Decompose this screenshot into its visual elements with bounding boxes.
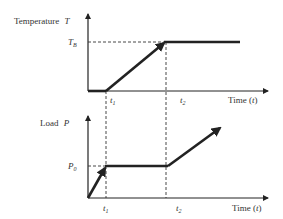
temperature-ramp-arrow <box>106 43 164 91</box>
p0-label: P0 <box>67 161 77 172</box>
time-axis-label-top: Time (t) <box>228 95 257 105</box>
t2-label-bottom: t2 <box>176 203 182 214</box>
load-axis-label: Load P <box>40 118 70 128</box>
time-axis-label-bottom: Time (t) <box>232 203 261 213</box>
load-initial-ramp-arrow <box>88 168 105 198</box>
load-second-ramp-arrow <box>168 128 220 166</box>
tb-label: TB <box>68 37 77 48</box>
load-chart: Load P P0 t1 t2 Time (t) <box>40 116 268 214</box>
t2-label-top: t2 <box>180 95 186 106</box>
temperature-axis-label: Temperature T <box>14 16 71 26</box>
diagram: Temperature T TB t1 t2 Time (t) Load P P… <box>0 0 283 219</box>
temperature-chart: Temperature T TB t1 t2 Time (t) <box>14 14 268 198</box>
t1-label-top: t1 <box>110 95 116 106</box>
t1-label-bottom: t1 <box>103 203 109 214</box>
